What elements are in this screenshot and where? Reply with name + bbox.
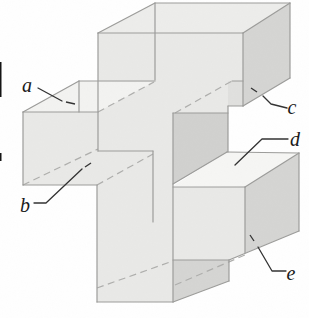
cross-solid-figure: abcde <box>0 0 309 318</box>
scan-artifact-1 <box>0 153 2 161</box>
label-b: b <box>20 194 30 216</box>
label-a: a <box>22 74 32 96</box>
figure-canvas: abcde <box>0 0 309 318</box>
label-d: d <box>290 128 301 150</box>
label-e: e <box>287 262 296 284</box>
scan-artifact-0 <box>0 62 2 97</box>
label-c: c <box>288 96 297 118</box>
